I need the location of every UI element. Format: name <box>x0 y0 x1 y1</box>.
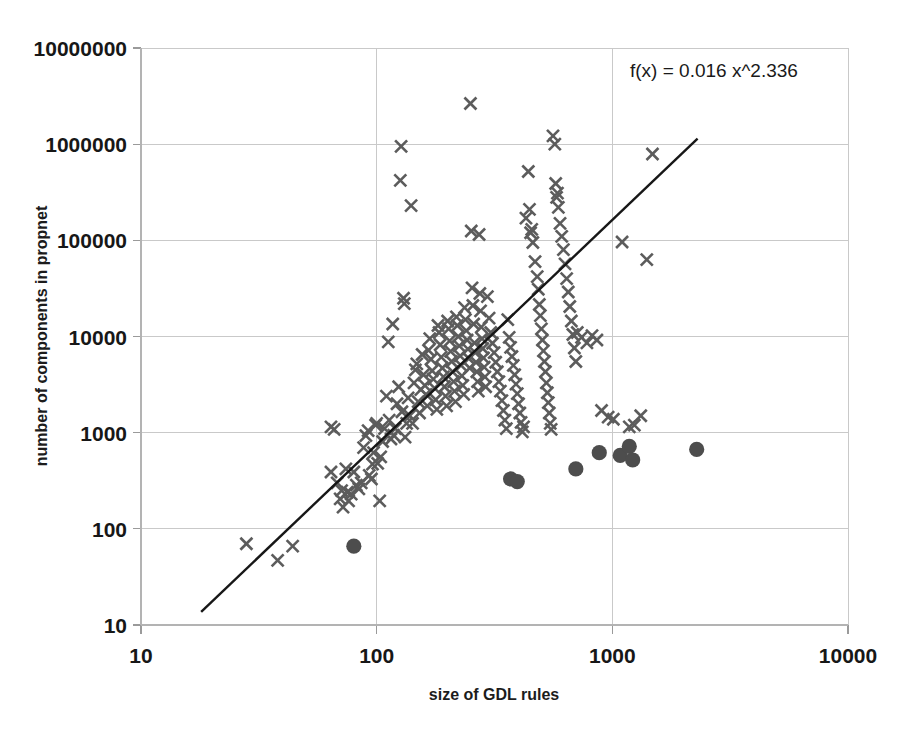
y-tick-label: 100000 <box>57 229 127 252</box>
scatter-chart: 10100100010000100000100000010000000 1010… <box>0 0 908 735</box>
data-point-x <box>405 200 417 212</box>
data-point-circle <box>346 539 361 554</box>
data-point-circle <box>568 461 583 476</box>
data-point-x <box>529 256 541 268</box>
data-point-x <box>554 217 566 229</box>
data-point-x <box>431 403 443 415</box>
trend-line <box>201 139 697 612</box>
x-tick-label: 1000 <box>589 644 636 667</box>
data-point-x <box>533 299 545 311</box>
data-point-x <box>552 201 564 213</box>
data-point-x <box>591 334 603 346</box>
x-tick-labels: 10100100010000 <box>129 644 877 667</box>
data-point-circle <box>689 442 704 457</box>
y-axis-title: number of components in propnet <box>33 205 50 466</box>
data-point-x <box>534 310 546 322</box>
data-point-x <box>539 366 551 378</box>
x-tick-label: 10000 <box>819 644 877 667</box>
data-point-circle <box>510 474 525 489</box>
data-point-x <box>380 390 392 402</box>
data-point-x <box>616 236 628 248</box>
y-tick-label: 100 <box>92 518 127 541</box>
data-point-x <box>646 148 658 160</box>
data-point-x <box>387 318 399 330</box>
y-tick-label: 1000000 <box>45 133 127 156</box>
chart-canvas: 10100100010000100000100000010000000 1010… <box>0 0 908 735</box>
data-point-x <box>564 301 576 313</box>
data-point-x <box>393 381 405 393</box>
x-axis-title: size of GDL rules <box>429 686 560 703</box>
data-point-x <box>240 538 252 550</box>
data-point-x <box>561 273 573 285</box>
data-point-x <box>641 254 653 266</box>
data-point-x <box>557 244 569 256</box>
data-point-x <box>535 323 547 335</box>
data-point-x <box>570 355 582 367</box>
data-point-x <box>272 554 284 566</box>
data-point-x <box>531 271 543 283</box>
data-point-x <box>382 336 394 348</box>
data-point-x <box>565 315 577 327</box>
data-point-x <box>402 392 414 404</box>
data-point-x <box>568 342 580 354</box>
data-point-x <box>562 286 574 298</box>
data-point-x <box>464 97 476 109</box>
data-point-circle <box>625 452 640 467</box>
data-point-x <box>325 466 337 478</box>
data-point-x <box>374 495 386 507</box>
data-point-x <box>522 165 534 177</box>
data-point-x <box>287 540 299 552</box>
y-tick-label: 10000 <box>69 326 127 349</box>
x-tick-label: 100 <box>359 644 394 667</box>
equation-text: f(x) = 0.016 x^2.336 <box>630 60 798 81</box>
trend-line-path <box>201 139 697 612</box>
data-point-x <box>466 282 478 294</box>
data-point-circle <box>592 445 607 460</box>
series-circle-markers <box>346 439 704 554</box>
data-point-x <box>459 302 471 314</box>
y-tick-label: 10 <box>104 614 127 637</box>
data-point-circle <box>622 439 637 454</box>
y-tick-label: 1000 <box>80 422 127 445</box>
x-tick-label: 10 <box>129 644 152 667</box>
data-point-x <box>395 140 407 152</box>
series-x-markers <box>240 97 658 566</box>
data-point-x <box>394 174 406 186</box>
data-point-x <box>483 312 495 324</box>
data-point-x <box>581 337 593 349</box>
equation-annotation: f(x) = 0.016 x^2.336 <box>630 60 798 81</box>
data-point-x <box>527 236 539 248</box>
y-tick-label: 10000000 <box>34 37 127 60</box>
